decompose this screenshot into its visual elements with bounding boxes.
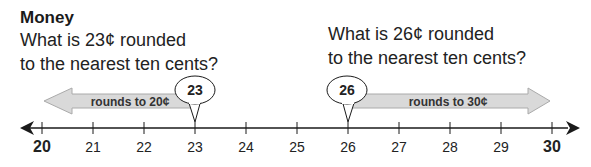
tick-label-20: 20 <box>33 138 51 155</box>
marker-value-26: 26 <box>339 82 355 98</box>
tick-label-27: 27 <box>391 139 407 155</box>
marker-bubble-26: 26 <box>327 76 367 122</box>
tick-label-26: 26 <box>340 139 356 155</box>
rounds-down-label: rounds to 20¢ <box>91 95 170 109</box>
tick-label-30: 30 <box>543 138 561 155</box>
right-arrowhead-icon <box>566 121 580 135</box>
tick-label-22: 22 <box>136 139 152 155</box>
tick-label-25: 25 <box>289 139 305 155</box>
tick-label-24: 24 <box>238 139 254 155</box>
tick-label-23: 23 <box>187 139 203 155</box>
marker-bubble-23: 23 <box>175 76 215 122</box>
tick-label-28: 28 <box>442 139 458 155</box>
number-line-diagram: rounds to 20¢ rounds to 30¢ 20 21 22 23 … <box>0 0 591 167</box>
rounds-up-label: rounds to 30¢ <box>409 95 488 109</box>
marker-value-23: 23 <box>187 82 203 98</box>
tick-label-21: 21 <box>85 139 101 155</box>
tick-label-29: 29 <box>493 139 509 155</box>
